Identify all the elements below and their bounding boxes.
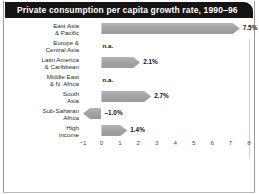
category-label-line: & Pacific — [5, 29, 79, 36]
category-label-line: Latin America — [5, 56, 79, 63]
category-label-line: East Asia — [5, 22, 79, 29]
bar-track: 7.5% — [83, 21, 249, 37]
chart-row: East Asia& Pacific7.5% — [5, 21, 253, 37]
category-label: East Asia& Pacific — [5, 21, 79, 36]
category-label-line: High — [5, 124, 79, 131]
category-label-line: Africa — [5, 114, 79, 121]
bar-value-label: 1.4% — [130, 126, 145, 133]
bar-track: –1.0% — [83, 106, 249, 122]
category-label-line: Central Asia — [5, 46, 79, 53]
bar — [101, 57, 140, 68]
bar-value-label: 2.7% — [154, 92, 169, 99]
bar-rows: East Asia& Pacific7.5%Europe &Central As… — [5, 21, 253, 140]
frame-bottom-rule — [3, 192, 255, 193]
not-available-label: n.a. — [102, 42, 113, 49]
x-axis-tick-label: 6 — [210, 139, 213, 146]
category-label: Latin America& Caribbean — [5, 55, 79, 70]
category-label-line: Europe & — [5, 39, 79, 46]
x-axis-tick-label: 5 — [192, 139, 195, 146]
category-label: SouthAsia — [5, 89, 79, 104]
category-label-line: & Caribbean — [5, 63, 79, 70]
bar-value-label: 7.5% — [243, 24, 258, 31]
category-label: Highincome — [5, 123, 79, 138]
bar-value-label: 2.1% — [143, 58, 158, 65]
chart-row: Highincome1.4% — [5, 123, 253, 139]
x-axis-tick-label: 2 — [137, 139, 140, 146]
category-label: Europe &Central Asia — [5, 38, 79, 53]
x-axis-tick-label: 4 — [173, 139, 176, 146]
category-label-line: Asia — [5, 97, 79, 104]
category-label-line: Sub-Saharan — [5, 107, 79, 114]
category-label-line: income — [5, 131, 79, 138]
bar-track: 2.7% — [83, 89, 249, 105]
category-label: Middle East& N. Africa — [5, 72, 79, 87]
bar-track: n.a. — [83, 72, 249, 88]
bar-track: n.a. — [83, 38, 249, 54]
chart-title-bar: Private consumption per capita growth ra… — [5, 2, 253, 18]
not-available-label: n.a. — [102, 76, 113, 83]
x-axis: −1012345678 — [83, 139, 253, 159]
x-axis-tick-label: 0 — [100, 139, 103, 146]
chart-row: Middle East& N. African.a. — [5, 72, 253, 88]
bar — [83, 108, 101, 119]
chart-row: Latin America& Caribbean2.1% — [5, 55, 253, 71]
x-axis-tick-label: 1 — [118, 139, 121, 146]
frame-left-rule — [3, 1, 4, 193]
x-axis-tick-label: −1 — [79, 139, 86, 146]
category-label-line: & N. Africa — [5, 80, 79, 87]
bar-track: 2.1% — [83, 55, 249, 71]
x-axis-tick-label: 7 — [229, 139, 232, 146]
chart-title: Private consumption per capita growth ra… — [17, 5, 238, 15]
bar — [101, 125, 127, 136]
bar — [101, 23, 239, 34]
bar — [101, 91, 151, 102]
category-label-line: South — [5, 90, 79, 97]
chart-figure: Private consumption per capita growth ra… — [0, 0, 259, 194]
chart-row: SouthAsia2.7% — [5, 89, 253, 105]
bar-value-label: –1.0% — [104, 109, 122, 116]
x-axis-tick-label: 8 — [247, 139, 250, 146]
plot-area: East Asia& Pacific7.5%Europe &Central As… — [5, 19, 253, 161]
chart-row: Sub-SaharanAfrica–1.0% — [5, 106, 253, 122]
bar-track: 1.4% — [83, 123, 249, 139]
category-label: Sub-SaharanAfrica — [5, 106, 79, 121]
chart-row: Europe &Central Asian.a. — [5, 38, 253, 54]
category-label-line: Middle East — [5, 73, 79, 80]
x-axis-tick-label: 3 — [155, 139, 158, 146]
